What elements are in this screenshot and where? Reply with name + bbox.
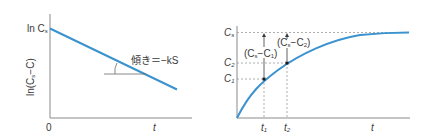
intercept-label: ln Cs bbox=[27, 23, 48, 34]
c1-label: C1 bbox=[224, 73, 235, 84]
slope-angle-arc bbox=[115, 63, 117, 74]
gap2-label: (Cs−C2) bbox=[277, 37, 310, 48]
c2-label: C2 bbox=[224, 57, 235, 68]
point-t2-c2 bbox=[286, 62, 289, 65]
left-y-axis-label: ln(Cs−C) bbox=[25, 58, 36, 96]
right-x-axis-t-label: t bbox=[371, 122, 375, 133]
gap1-label: (Cs−C1) bbox=[244, 48, 277, 59]
gap1-arrowhead-up bbox=[262, 33, 266, 37]
t1-label: t1 bbox=[261, 122, 267, 133]
left-x-axis-t-label: t bbox=[153, 122, 157, 133]
right-chart: Cs C2 C1 (Cs−C1) (Cs−C2) t1 t2 t bbox=[224, 26, 410, 133]
concentration-curve bbox=[237, 33, 409, 119]
slope-label: 傾き＝−kS bbox=[131, 54, 179, 66]
left-origin-label: 0 bbox=[46, 122, 52, 133]
left-chart: ln Cs ln(Cs−C) 傾き＝−kS 0 t bbox=[25, 14, 192, 133]
cs-label: Cs bbox=[224, 27, 234, 38]
t2-label: t2 bbox=[284, 122, 291, 133]
figure-canvas: ln Cs ln(Cs−C) 傾き＝−kS 0 t bbox=[0, 0, 421, 139]
point-t1-c1 bbox=[263, 78, 266, 81]
